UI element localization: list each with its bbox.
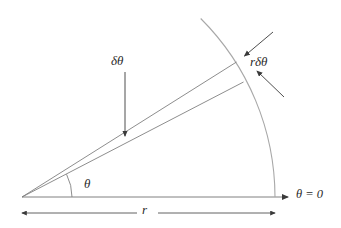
r-delta-theta-label: rδθ [250, 55, 268, 68]
upper-ray [22, 62, 237, 197]
theta-angle-arc [67, 174, 72, 197]
outer-arc [201, 19, 275, 198]
lower-ray [22, 82, 244, 197]
r-delta-theta-arrow-lower [257, 71, 284, 97]
theta-zero-axis-label: θ = 0 [296, 188, 323, 201]
r-delta-theta-arrow-upper [245, 32, 274, 56]
radius-label: r [142, 203, 147, 216]
delta-theta-label: δθ [111, 54, 123, 67]
theta-angle-label: θ [84, 177, 90, 190]
polar-sector-diagram: δθ rδθ θ θ = 0 r [0, 0, 341, 228]
diagram-canvas [0, 0, 341, 228]
